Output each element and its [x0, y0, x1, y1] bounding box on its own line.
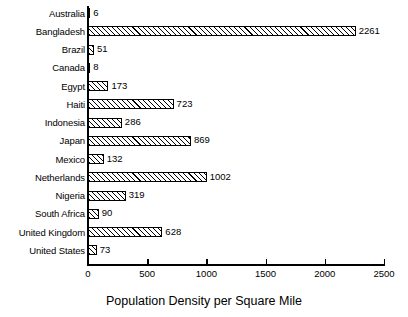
bar	[88, 191, 126, 201]
y-axis-label: Brazil	[0, 45, 85, 55]
x-axis-tick-label: 1000	[196, 268, 217, 279]
y-axis-label: Canada	[0, 63, 85, 73]
bar-value-label: 1002	[210, 172, 231, 182]
bar-value-label: 628	[165, 227, 181, 237]
bar-value-label: 8	[93, 62, 98, 72]
y-axis-label: United States	[0, 246, 85, 256]
x-axis-tick-label: 0	[85, 268, 90, 279]
y-axis-label: Australia	[0, 9, 85, 19]
bar-value-label: 869	[194, 135, 210, 145]
bar-value-label: 319	[129, 190, 145, 200]
y-axis-label: Egypt	[0, 82, 85, 92]
x-axis-tick	[384, 259, 385, 264]
x-axis-tick-label: 2500	[373, 268, 394, 279]
y-axis-label: Bangladesh	[0, 27, 85, 37]
x-axis-tick-label: 1500	[255, 268, 276, 279]
y-axis-label: Netherlands	[0, 173, 85, 183]
bar-value-label: 90	[102, 208, 113, 218]
bar	[88, 99, 174, 109]
bar	[88, 154, 104, 164]
bar	[88, 245, 97, 255]
bar-value-label: 6	[93, 8, 98, 18]
x-axis-title: Population Density per Square Mile	[0, 294, 408, 308]
x-axis-tick	[147, 259, 148, 264]
bar	[88, 8, 90, 18]
bar	[88, 227, 162, 237]
y-axis-label: Nigeria	[0, 191, 85, 201]
bar	[88, 45, 94, 55]
bar-value-label: 723	[177, 99, 193, 109]
bar-value-label: 286	[125, 117, 141, 127]
bar-value-label: 173	[111, 81, 127, 91]
y-axis-label: Japan	[0, 136, 85, 146]
bar	[88, 209, 99, 219]
x-axis-tick	[88, 259, 89, 264]
y-axis-label: United Kingdom	[0, 228, 85, 238]
bar-value-label: 73	[100, 245, 111, 255]
bar-chart: AustraliaBangladeshBrazilCanadaEgyptHait…	[0, 0, 408, 317]
y-axis-label: Indonesia	[0, 118, 85, 128]
bar-value-label: 132	[107, 154, 123, 164]
bar	[88, 136, 191, 146]
y-axis-label: South Africa	[0, 209, 85, 219]
bar-value-label: 51	[97, 44, 108, 54]
x-axis-tick-label: 2000	[314, 268, 335, 279]
plot-area: 6226151817372328686913210023199062873	[88, 8, 384, 264]
x-axis-tick	[266, 259, 267, 264]
bar	[88, 172, 207, 182]
x-axis-tick-label: 500	[139, 268, 155, 279]
bar	[88, 26, 356, 36]
bar	[88, 81, 108, 91]
x-axis-tick	[325, 259, 326, 264]
x-axis-tick	[206, 259, 207, 264]
y-axis-category-labels: AustraliaBangladeshBrazilCanadaEgyptHait…	[0, 0, 85, 265]
x-axis-line	[87, 264, 385, 266]
bar	[88, 63, 90, 73]
bar	[88, 118, 122, 128]
y-axis-label: Haiti	[0, 100, 85, 110]
bar-value-label: 2261	[359, 26, 380, 36]
y-axis-label: Mexico	[0, 155, 85, 165]
